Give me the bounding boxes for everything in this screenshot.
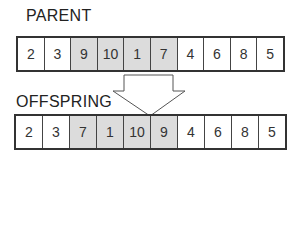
offspring-gene-cell: 2 <box>16 116 43 148</box>
offspring-label: OFFSPRING <box>16 93 112 111</box>
offspring-gene-cell: 3 <box>43 116 70 148</box>
offspring-gene-cell: 9 <box>151 116 178 148</box>
offspring-gene-cell: 6 <box>205 116 232 148</box>
offspring-gene-cell: 7 <box>70 116 97 148</box>
offspring-gene-cell: 8 <box>232 116 259 148</box>
offspring-chromosome: 23711094685 <box>14 114 287 150</box>
down-arrow-icon <box>113 75 185 116</box>
offspring-gene-cell: 1 <box>97 116 124 148</box>
offspring-gene-cell: 5 <box>259 116 285 148</box>
offspring-gene-cell: 4 <box>178 116 205 148</box>
offspring-gene-cell: 10 <box>124 116 151 148</box>
